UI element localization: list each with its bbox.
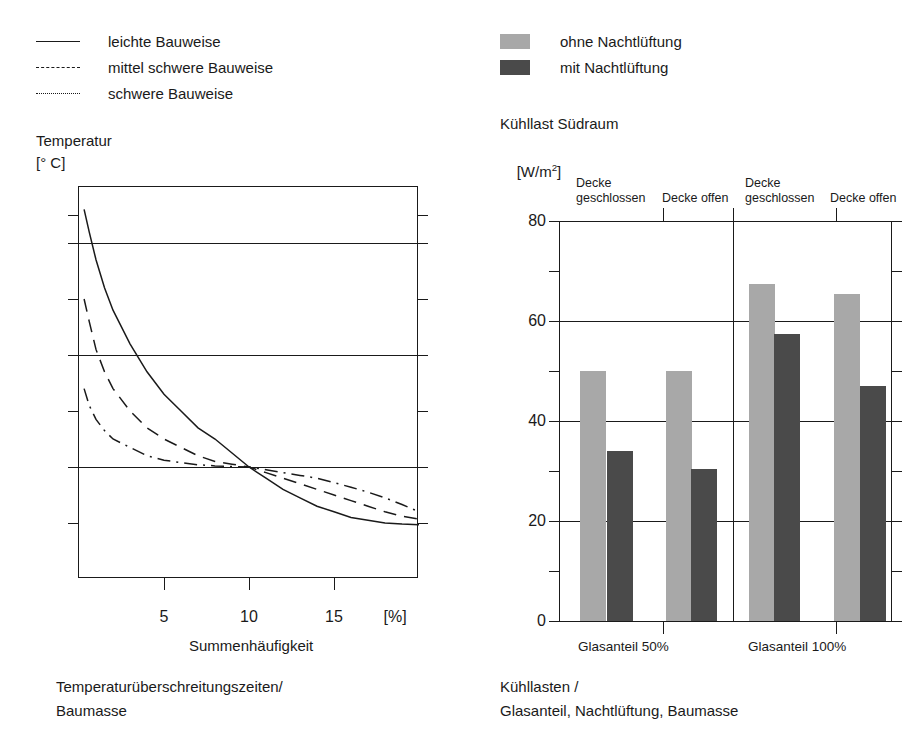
x-axis-tick — [663, 621, 664, 634]
x-axis-title: Summenhäufigkeit — [189, 637, 313, 654]
bar-mit-nachtlueftung — [607, 451, 633, 621]
y-axis-major-tick — [891, 321, 902, 322]
y-axis-major-tick — [549, 221, 560, 222]
y-axis-minor-tick — [68, 411, 79, 412]
y-axis-minor-tick — [68, 523, 79, 524]
x-axis-top-tick — [836, 208, 837, 221]
y-axis-major-tick — [891, 521, 902, 522]
y-axis-major-tick — [549, 321, 560, 322]
caption-left-line1: Temperaturüberschreitungszeiten/ — [56, 676, 283, 697]
y-axis-minor-tick — [68, 299, 79, 300]
group-label: Decke geschlossen — [576, 176, 646, 206]
gridline-y — [558, 221, 892, 222]
y-axis-minor-tick — [549, 571, 560, 572]
caption-right-line1: Kühllasten / — [500, 676, 578, 697]
bar-mit-nachtlueftung — [774, 334, 800, 622]
group-label: Decke offen — [830, 191, 896, 206]
x-axis-tick-label: 15 — [314, 609, 354, 625]
y-axis-minor-tick — [891, 571, 902, 572]
bar-ohne-nachtlueftung — [834, 294, 860, 622]
plot-area-left: 2325272951015[%]Summenhäufigkeit — [78, 186, 418, 578]
y-axis-major-tick — [891, 221, 902, 222]
x-axis-tick — [836, 621, 837, 634]
line-series — [84, 299, 419, 519]
bar-ohne-nachtlueftung — [666, 371, 692, 621]
y-axis-major-tick — [549, 621, 560, 622]
x-axis-tick-label: 10 — [229, 609, 269, 625]
gridline-y — [558, 621, 892, 622]
caption-left-line2: Baumasse — [56, 700, 127, 721]
y-axis-minor-tick — [891, 371, 902, 372]
category-label: Glasanteil 50% — [578, 639, 669, 655]
chart-cooling-load: Kühllast Südraum [W/m2] 806040200Decke g… — [470, 0, 914, 754]
y-axis-major-tick — [549, 421, 560, 422]
y-axis-title-line2: [W/m2] — [500, 136, 561, 203]
bar-ohne-nachtlueftung — [580, 371, 606, 621]
y-axis-minor-tick — [549, 371, 560, 372]
x-axis-unit-label: [%] — [370, 609, 420, 625]
y-axis-major-tick — [891, 621, 902, 622]
line-series — [84, 389, 419, 512]
y-axis-tick-label: 0 — [537, 613, 546, 629]
group-label: Decke geschlossen — [745, 176, 815, 206]
caption-right-line2: Glasanteil, Nachtlüftung, Baumasse — [500, 700, 738, 721]
y-axis-title-line1: Kühllast Südraum — [500, 113, 618, 134]
group-separator — [733, 221, 734, 621]
category-label: Glasanteil 100% — [748, 639, 846, 655]
line-series-group — [79, 187, 419, 579]
y-axis-major-tick — [549, 521, 560, 522]
bar-mit-nachtlueftung — [860, 386, 886, 621]
y-axis-major-tick — [891, 421, 902, 422]
line-series — [84, 209, 419, 524]
y-axis-tick-label: 80 — [528, 213, 546, 229]
x-axis-top-tick — [733, 208, 734, 221]
y-axis-title-line2: [° C] — [36, 152, 65, 173]
y-axis-minor-tick — [891, 271, 902, 272]
x-axis-top-tick — [663, 208, 664, 221]
bar-mit-nachtlueftung — [691, 469, 717, 622]
y-axis-tick-label: 60 — [528, 313, 546, 329]
y-axis-major-tick — [68, 467, 79, 468]
y-axis-title-line1: Temperatur — [36, 130, 112, 151]
y-axis-major-tick — [68, 355, 79, 356]
y-axis-tick-label: 40 — [528, 413, 546, 429]
x-axis-tick-label: 5 — [144, 609, 184, 625]
bar-ohne-nachtlueftung — [749, 284, 775, 622]
group-label: Decke offen — [662, 191, 728, 206]
y-axis-unit-post: ] — [557, 163, 561, 180]
y-axis-minor-tick — [68, 215, 79, 216]
y-axis-unit-pre: [W/m — [517, 163, 552, 180]
y-axis-minor-tick — [549, 471, 560, 472]
y-axis-major-tick — [68, 243, 79, 244]
y-axis-minor-tick — [549, 271, 560, 272]
y-axis-minor-tick — [891, 471, 902, 472]
y-axis-tick-label: 20 — [528, 513, 546, 529]
plot-area-right: 806040200Decke geschlossenDecke offenDec… — [559, 221, 892, 621]
chart-temperature-exceedance: Temperatur [° C] 2325272951015[%]Summenh… — [0, 0, 470, 754]
